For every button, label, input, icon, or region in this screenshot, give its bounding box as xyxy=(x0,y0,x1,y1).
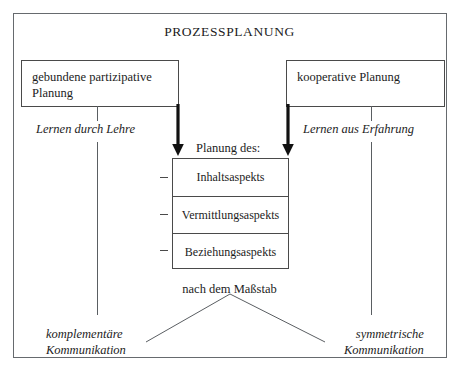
label-lernen-durch-lehre: Lernen durch Lehre xyxy=(36,122,135,137)
aspect-label-beziehung: Beziehungsaspekts xyxy=(185,245,276,260)
box-left-line1: gebundene partizipative xyxy=(32,70,152,84)
thick-down-arrow-icon-left xyxy=(170,104,186,156)
page-title: PROZESSPLANUNG xyxy=(0,24,459,40)
box-kooperative-planung: kooperative Planung xyxy=(286,60,445,107)
box-planung-aspekte: Inhaltsaspekts Vermittlungsaspekts Bezie… xyxy=(172,158,289,269)
diagram-canvas: PROZESSPLANUNG gebundene partizipative P… xyxy=(0,0,459,375)
aspect-row-beziehung: Beziehungsaspekts xyxy=(173,233,288,270)
aspect-row-vermittlung: Vermittlungsaspekts xyxy=(173,196,288,233)
symmetrisch-line1: symmetrische xyxy=(344,326,424,342)
label-symmetrische-kommunikation: symmetrische Kommunikation xyxy=(344,326,424,358)
label-komplementaere-kommunikation: komplementäre Kommunikation xyxy=(46,326,126,358)
komplementaer-line2: Kommunikation xyxy=(46,342,126,358)
thick-down-arrow-icon-right xyxy=(280,104,296,156)
symmetrisch-line2: Kommunikation xyxy=(344,342,424,358)
label-lernen-aus-erfahrung: Lernen aus Erfahrung xyxy=(303,122,414,137)
dash-marker-beziehungsaspekts xyxy=(160,250,168,251)
komplementaer-line1: komplementäre xyxy=(46,326,126,342)
box-gebundene-partizipative-planung: gebundene partizipative Planung xyxy=(21,60,179,107)
connector-line-right-upper xyxy=(371,106,372,121)
label-planung-des: Planung des: xyxy=(196,141,260,156)
aspect-label-inhalt: Inhaltsaspekts xyxy=(197,170,265,185)
box-left-line2: Planung xyxy=(32,86,73,100)
connector-line-left-upper xyxy=(97,106,98,121)
box-right-line1: kooperative Planung xyxy=(297,70,400,84)
aspect-label-vermittlung: Vermittlungsaspekts xyxy=(182,208,279,223)
dash-marker-vermittlungsaspekts xyxy=(160,214,168,215)
aspect-row-inhalt: Inhaltsaspekts xyxy=(173,159,288,196)
dash-marker-inhaltsaspekts xyxy=(160,177,168,178)
branch-v-connector xyxy=(130,292,340,350)
